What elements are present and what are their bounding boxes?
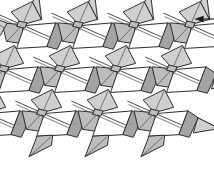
module-pleat-tab xyxy=(167,65,177,72)
module-pleat-tab xyxy=(185,21,195,28)
module-pleat-tab xyxy=(129,21,139,28)
module-pleat-tab xyxy=(73,21,83,28)
module-pleat-tab xyxy=(55,65,65,72)
module-pleat-tab xyxy=(93,109,103,116)
module-pleat-tab xyxy=(37,109,47,116)
module-pleat-tab xyxy=(0,65,9,72)
module-pleat-tab xyxy=(17,21,27,28)
origami-tessellation-figure xyxy=(0,0,214,182)
module-pleat-tab xyxy=(149,109,159,116)
figure-root xyxy=(0,0,214,182)
module-pleat-tab xyxy=(111,65,121,72)
